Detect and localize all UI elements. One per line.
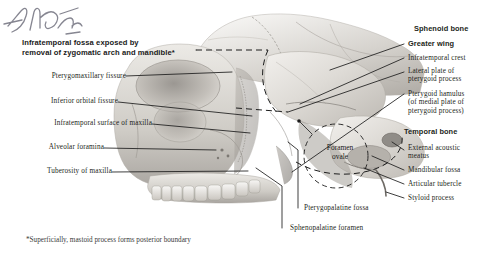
label-infratemporal-crest: Infratemporal crest (408, 54, 466, 62)
label-foramen-ovale: Foramen ovale (316, 144, 364, 161)
label-temporal-bone: Temporal bone (404, 128, 457, 136)
label-external-acoustic-meatus: External acoustic meatus (408, 144, 460, 161)
label-alveolar-foramina: Alveolar foramina (0, 143, 104, 151)
label-sphenopalatine-foramen: Sphenopalatine foramen (290, 224, 363, 232)
artist-signature (4, 8, 82, 34)
label-pterygomaxillary-fissure: Pterygomaxillary fissure (0, 72, 126, 80)
label-infratemporal-surface-of-maxilla: Infratemporal surface of maxilla (0, 119, 152, 127)
label-greater-wing: Greater wing (408, 40, 454, 48)
label-pterygoid-hamulus: Pterygoid hamulus (of medial plate of pt… (408, 90, 465, 115)
label-pterygopalatine-fossa: Pterygopalatine fossa (304, 204, 369, 212)
label-tuberosity-of-maxilla: Tuberosity of maxilla (0, 167, 112, 175)
maxilla-and-orbit (114, 44, 244, 188)
maxillary-teeth (148, 173, 280, 203)
label-styloid-process: Styloid process (408, 194, 454, 202)
plate-footnote: *Superficially, mastoid process forms po… (26, 236, 191, 244)
label-sphenoid-bone: Sphenoid bone (414, 25, 468, 33)
label-lateral-plate-of-pterygoid-process: Lateral plate of pterygoid process (408, 67, 461, 84)
label-inferior-orbital-fissure: Inferior orbital fissure (0, 97, 118, 105)
anatomy-plate: Infratemporal fossa exposed by removal o… (0, 0, 504, 270)
label-articular-tubercle: Articular tubercle (408, 180, 461, 188)
plate-title: Infratemporal fossa exposed by removal o… (22, 38, 232, 57)
label-mandibular-fossa: Mandibular fossa (408, 166, 460, 174)
